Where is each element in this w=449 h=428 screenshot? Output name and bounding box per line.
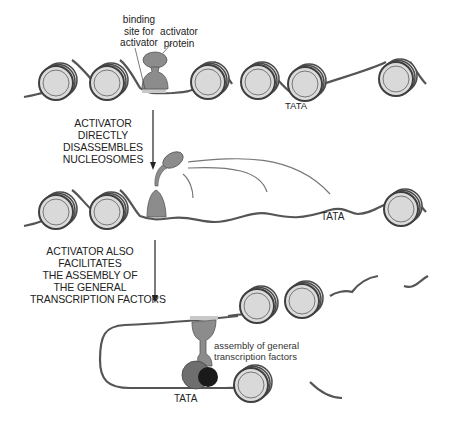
label-line: site for [117,26,161,38]
step-caption-2: ACTIVATOR ALSO FACILITATES THE ASSEMBLY … [30,245,150,305]
caption-line: TRANSCRIPTION FACTORS [30,293,150,305]
activator-protein [192,320,216,366]
label-line: activator [117,37,161,49]
diagram-canvas [0,0,449,428]
nucleosome [384,189,422,226]
nucleosome [241,62,279,99]
step-caption-1: ACTIVATOR DIRECTLY DISASSEMBLES NUCLEOSO… [60,117,146,165]
binding-site [190,316,218,320]
nucleosome [39,192,77,229]
nucleosome [288,64,326,101]
caption-line: FACILITATES [30,257,150,269]
nucleosome [39,63,77,100]
caption-line: ACTIVATOR ALSO [30,245,150,257]
activator-protein [142,52,168,89]
binding-site-label: binding site for activator [117,14,161,49]
caption-line: NUCLEOSOMES [60,153,146,165]
nucleosome [285,281,323,318]
tata-label: TATA [285,100,307,112]
nucleosome [234,365,272,402]
tata-label: TATA [321,211,344,223]
label-line: assembly of general [214,340,299,351]
label-line: transcription factors [214,351,299,362]
label-line: protein [157,38,201,50]
nucleosome [90,63,128,100]
activator-protein-label: activator protein [157,26,201,49]
assembly-label: assembly of general transcription factor… [214,340,299,362]
binding-site [142,89,166,93]
label-line: activator [157,26,201,38]
tata-label: TATA [174,393,197,405]
nucleosome [191,62,229,99]
nucleosome [240,286,278,323]
caption-line: DISASSEMBLES [60,141,146,153]
gtf-small [198,367,218,387]
caption-line: THE ASSEMBLY OF [30,269,150,281]
caption-line: DIRECTLY [60,129,146,141]
nucleosome [90,192,128,229]
label-line: binding [117,14,161,26]
caption-line: THE GENERAL [30,281,150,293]
nucleosome [379,59,417,96]
step-arrow-1 [150,110,156,170]
caption-line: ACTIVATOR [60,117,146,129]
panel-1-chromatin [24,43,426,101]
